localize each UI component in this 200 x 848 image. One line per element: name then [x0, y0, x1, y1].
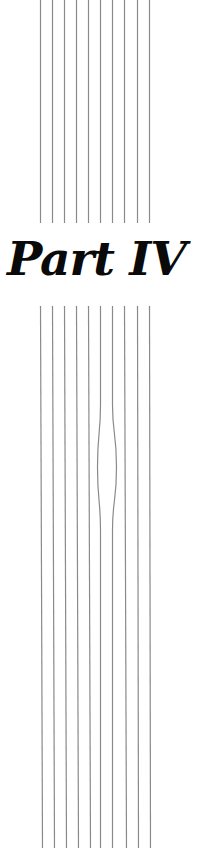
bottom-line-2: [65, 306, 67, 848]
bottom-line-5: [98, 306, 101, 848]
bottom-line-group: [41, 306, 151, 848]
bottom-line-0: [41, 306, 43, 848]
bottom-line-4: [89, 306, 91, 848]
bottom-line-3: [77, 306, 79, 848]
bottom-line-1: [53, 306, 55, 848]
bottom-line-6: [113, 306, 117, 848]
part-title: Part IV: [7, 229, 186, 289]
bottom-line-7: [125, 306, 127, 848]
decorative-vertical-lines: [0, 0, 200, 848]
top-line-group: [41, 0, 150, 223]
bottom-line-8: [138, 306, 139, 848]
bottom-line-9: [150, 306, 151, 848]
